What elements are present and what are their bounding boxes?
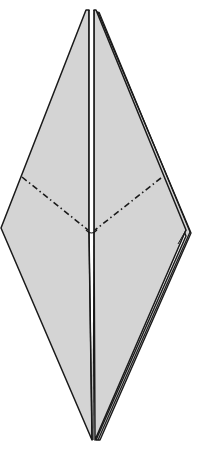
center-crease-right bbox=[93, 234, 94, 440]
center-slit bbox=[90, 11, 94, 233]
right-flap bbox=[94, 10, 186, 440]
origami-diagram bbox=[0, 0, 205, 451]
left-flap bbox=[1, 10, 92, 440]
